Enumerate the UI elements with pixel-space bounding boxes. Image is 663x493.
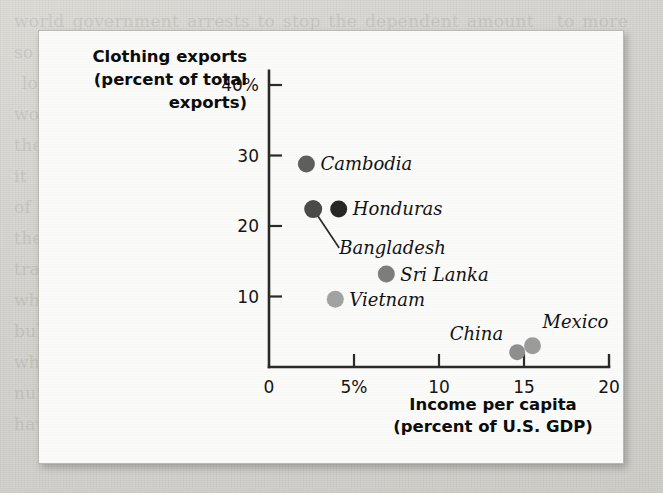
y-axis-title-line3: exports): [47, 91, 247, 114]
x-tick-label-5: 5%: [341, 377, 368, 397]
data-label-cambodia: Cambodia: [320, 153, 412, 174]
x-axis-title-line2: (percent of U.S. GDP): [369, 416, 617, 438]
data-label-bangladesh: Bangladesh: [338, 237, 446, 258]
data-label-honduras: Honduras: [352, 198, 443, 219]
figure-panel: 10203040%05%101520 CambodiaBangladeshHon…: [38, 30, 624, 464]
data-point-vietnam[interactable]: [327, 291, 344, 308]
data-point-bangladesh[interactable]: [304, 200, 322, 218]
data-point-labels-group: CambodiaBangladeshHondurasSri LankaVietn…: [320, 153, 608, 344]
x-axis-title-line1: Income per capita: [369, 394, 617, 416]
y-axis-title: Clothing exports (percent of total expor…: [47, 45, 247, 114]
y-tick-label-30: 30: [237, 146, 259, 166]
x-axis-title: Income per capita (percent of U.S. GDP): [369, 394, 617, 438]
data-label-sri-lanka: Sri Lanka: [400, 264, 488, 285]
y-axis-title-line1: Clothing exports: [47, 45, 247, 68]
tick-labels-group: 10203040%05%101520: [221, 75, 620, 397]
data-point-cambodia[interactable]: [298, 155, 315, 172]
data-label-mexico: Mexico: [542, 311, 609, 332]
x-tick-label-0: 0: [264, 377, 275, 397]
data-label-china: China: [450, 323, 503, 344]
data-point-china[interactable]: [509, 344, 525, 360]
data-point-honduras[interactable]: [330, 201, 347, 218]
data-label-vietnam: Vietnam: [349, 289, 425, 310]
y-axis-title-line2: (percent of total: [47, 68, 247, 91]
data-point-mexico[interactable]: [524, 337, 541, 354]
y-tick-label-20: 20: [237, 216, 259, 236]
data-point-sri-lanka[interactable]: [378, 265, 395, 282]
y-tick-label-10: 10: [237, 287, 259, 307]
leader-line-bangladesh: [315, 212, 339, 248]
